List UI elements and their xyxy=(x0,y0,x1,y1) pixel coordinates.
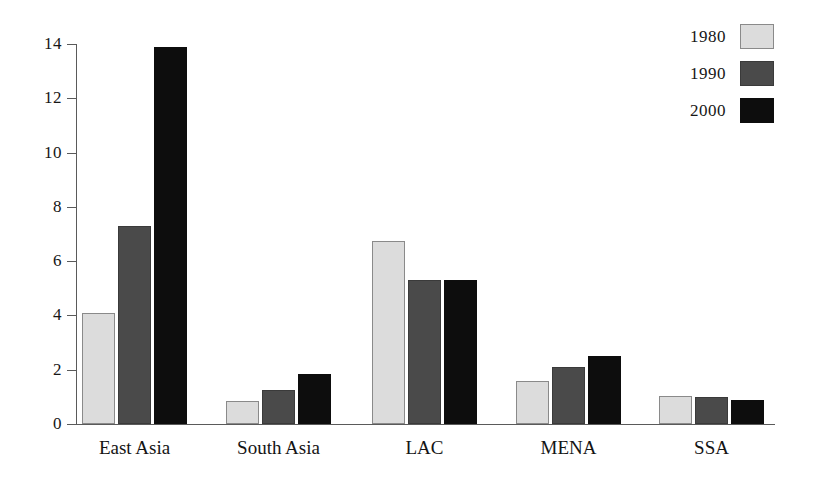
legend-swatch xyxy=(740,98,774,123)
legend-item: 1980 xyxy=(690,24,774,49)
x-axis-line xyxy=(76,424,775,425)
bar xyxy=(552,367,585,424)
x-axis-category-label: LAC xyxy=(406,437,444,459)
bar-group xyxy=(516,44,621,424)
bar xyxy=(82,313,115,424)
legend-item: 2000 xyxy=(690,98,774,123)
legend-label: 1980 xyxy=(690,27,726,47)
legend-label: 2000 xyxy=(690,101,726,121)
y-axis-tick-label: 14 xyxy=(44,34,62,54)
bar-group xyxy=(82,44,187,424)
y-axis-tick-labels: 02468101214 xyxy=(0,0,62,491)
bar xyxy=(372,241,405,424)
legend-label: 1990 xyxy=(690,64,726,84)
bar xyxy=(408,280,441,424)
bar xyxy=(516,381,549,424)
y-axis-tick xyxy=(67,261,76,262)
y-axis-tick-label: 10 xyxy=(44,143,62,163)
bar xyxy=(226,401,259,424)
x-axis-category-label: East Asia xyxy=(99,437,170,459)
bar xyxy=(659,396,692,425)
legend: 198019902000 xyxy=(690,24,774,123)
y-axis-tick xyxy=(67,424,76,425)
bar xyxy=(262,390,295,424)
x-axis-category-label: MENA xyxy=(541,437,597,459)
y-axis-tick xyxy=(67,370,76,371)
bar xyxy=(444,280,477,424)
y-axis-tick xyxy=(67,44,76,45)
y-axis-tick-label: 4 xyxy=(53,305,62,325)
y-axis-tick-label: 6 xyxy=(53,251,62,271)
y-axis-tick xyxy=(67,98,76,99)
legend-swatch xyxy=(740,61,774,86)
bar xyxy=(298,374,331,424)
x-axis-category-label: SSA xyxy=(694,437,729,459)
bar-chart: 02468101214 East AsiaSouth AsiaLACMENASS… xyxy=(0,0,820,491)
legend-swatch xyxy=(740,24,774,49)
bar xyxy=(731,400,764,424)
bar-group xyxy=(226,44,331,424)
bar xyxy=(588,356,621,424)
bar xyxy=(118,226,151,424)
y-axis-tick-label: 12 xyxy=(44,88,62,108)
x-axis-category-label: South Asia xyxy=(237,437,320,459)
bar xyxy=(695,397,728,424)
legend-item: 1990 xyxy=(690,61,774,86)
y-axis-tick xyxy=(67,315,76,316)
bar-group xyxy=(372,44,477,424)
y-axis-tick-label: 2 xyxy=(53,360,62,380)
bar xyxy=(154,47,187,424)
y-axis-tick xyxy=(67,207,76,208)
y-axis-tick-label: 8 xyxy=(53,197,62,217)
plot-area xyxy=(76,44,775,424)
y-axis-tick xyxy=(67,153,76,154)
y-axis-tick-label: 0 xyxy=(53,414,62,434)
